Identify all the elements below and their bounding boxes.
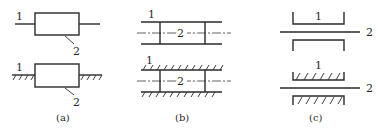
leader-line-2 xyxy=(65,36,74,44)
leader-line-2 xyxy=(65,88,74,95)
lower-bracket xyxy=(293,96,344,105)
label-1: 1 xyxy=(315,59,322,72)
diagram-canvas: 1 2 1 2 (a) xyxy=(0,0,381,131)
ground-hatch-lower-icon xyxy=(298,97,342,104)
ground-hatch-upper-icon xyxy=(296,73,340,80)
label-2: 2 xyxy=(177,75,184,88)
caption-c: (c) xyxy=(309,112,323,123)
label-2: 2 xyxy=(366,82,373,95)
label-2: 2 xyxy=(73,45,80,58)
label-1: 1 xyxy=(16,10,23,23)
caption-b: (b) xyxy=(175,112,189,123)
label-1: 1 xyxy=(146,54,153,67)
panel-b: 1 2 xyxy=(137,8,231,123)
panel-b-top-free-element: 1 2 xyxy=(137,8,231,44)
label-2: 2 xyxy=(177,27,184,40)
panel-b-bottom-grounded-element: 1 2 xyxy=(137,54,231,97)
ground-hatch-bottom-icon xyxy=(142,92,215,97)
ground-hatch-right-icon xyxy=(81,75,102,80)
element-box xyxy=(35,64,79,87)
ground-hatch-top-icon xyxy=(143,65,223,70)
label-2: 2 xyxy=(366,26,373,39)
label-1: 1 xyxy=(315,10,322,23)
panel-c-top-free-element: 1 2 xyxy=(280,10,373,51)
panel-a-top-free-element: 1 2 xyxy=(15,10,100,58)
panel-a-bottom-grounded-element: 1 2 xyxy=(12,61,102,109)
lower-bracket xyxy=(293,40,344,51)
panel-a: 1 2 1 2 (a) xyxy=(12,10,102,123)
label-2: 2 xyxy=(73,96,80,109)
caption-a: (a) xyxy=(56,112,70,123)
ground-hatch-left-icon xyxy=(13,75,34,80)
panel-c-bottom-grounded-element: 1 2 xyxy=(280,59,373,105)
element-box xyxy=(35,13,79,35)
panel-c: 1 2 1 2 xyxy=(280,10,373,123)
label-1: 1 xyxy=(148,8,155,21)
label-1: 1 xyxy=(16,61,23,74)
